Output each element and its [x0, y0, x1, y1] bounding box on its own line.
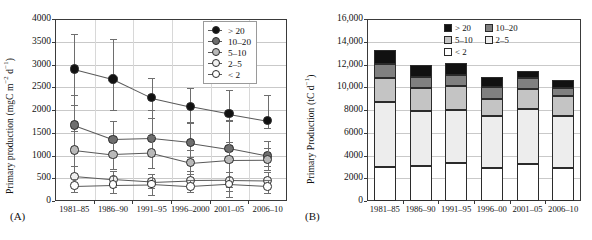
- panel-a-legend-label: > 20: [228, 26, 245, 36]
- panel-a-legend-line: [208, 41, 222, 42]
- panel-a-x-tickmark: [248, 201, 249, 204]
- panel-a-error-cap: [148, 78, 155, 79]
- panel-a-error-cap: [187, 192, 194, 193]
- panel-b-y-tick: 10,000: [318, 82, 363, 92]
- panel-b-bar-segment: [481, 99, 503, 117]
- panel-a-y-tick: 2500: [18, 82, 51, 92]
- panel-a-y-tick: 500: [18, 173, 51, 183]
- panel-b-y-tickmark: [364, 19, 367, 20]
- panel-a-y-tick: 2000: [18, 105, 51, 115]
- panel-b-bar-segment: [481, 87, 503, 98]
- panel-a-gridline: [56, 87, 286, 88]
- panel-a-error-cap: [187, 123, 194, 124]
- panel-b-bar-segment: [517, 71, 539, 78]
- panel-a-error-cap: [148, 174, 155, 175]
- panel-b-bar-segment: [552, 80, 574, 88]
- panel-b-legend-label: < 2: [455, 47, 467, 57]
- panel-a-error-cap: [187, 150, 194, 151]
- panel-a-y-tick: 0: [18, 196, 51, 206]
- panel-b-y-tickmark: [364, 42, 367, 43]
- panel-a-marker-3: [224, 155, 234, 165]
- panel-b-legend-swatch: [444, 24, 452, 32]
- panel-a-marker-3: [108, 150, 118, 160]
- panel-a-legend-label: 10–20: [228, 37, 251, 47]
- panel-b-x-tickmark: [474, 201, 475, 204]
- panel-a-error-cap: [110, 110, 117, 111]
- panel-a-marker-5: [263, 182, 272, 191]
- panel-a-error-cap: [110, 39, 117, 40]
- panel-b-legend-swatch: [485, 24, 493, 32]
- panel-a-marker-5: [186, 182, 195, 191]
- panel-b-x-tickmark: [545, 201, 546, 204]
- figure-container: Primary production (mgC m−2 d−1) 4000350…: [0, 0, 592, 240]
- panel-a-error-cap: [226, 90, 233, 91]
- panel-a-error-cap: [71, 95, 78, 96]
- panel-b-gridline: [368, 87, 580, 88]
- panel-a-legend-label: 5–10: [228, 48, 246, 58]
- panel-b-legend-label: 5–10: [455, 35, 473, 45]
- panel-a-y-tick: 3000: [18, 60, 51, 70]
- panel-a-y-tick: 4000: [18, 14, 51, 24]
- panel-b-bar-segment: [374, 167, 396, 201]
- panel-a-error-cap: [264, 180, 271, 181]
- panel-b-bar-segment: [410, 166, 432, 201]
- panel-b-legend-item: 10–20: [485, 22, 518, 33]
- panel-a-legend-line: [208, 52, 222, 53]
- panel-b-bar-segment: [517, 164, 539, 201]
- panel-a-y-tickmark: [52, 156, 55, 157]
- panel-a-y-tickmark: [52, 178, 55, 179]
- panel-a-error-cap: [110, 171, 117, 172]
- panel-b-gridline: [368, 178, 580, 179]
- panel-a-x-tickmark: [210, 201, 211, 204]
- panel-b-y-tickmark: [364, 87, 367, 88]
- panel-b-bar-segment: [552, 116, 574, 168]
- panel-b-bar-segment: [481, 77, 503, 87]
- panel-b-y-tick: 4000: [318, 151, 363, 161]
- panel-a-gridline: [56, 133, 286, 134]
- panel-b-y-tick: 6000: [318, 128, 363, 138]
- panel-a-marker-3: [70, 145, 80, 155]
- panel-b-legend-swatch: [485, 36, 493, 44]
- panel-a: Primary production (mgC m−2 d−1) 4000350…: [0, 0, 296, 240]
- panel-a-error-cap: [264, 148, 271, 149]
- panel-b-bar-segment: [374, 78, 396, 102]
- panel-a-legend-marker: [212, 37, 220, 45]
- panel-a-error-cap: [110, 138, 117, 139]
- panel-a-legend-item: 5–10: [208, 47, 251, 58]
- panel-b-bar-segment: [445, 86, 467, 110]
- panel-b-legend-item: 2–5: [485, 34, 518, 45]
- panel-b-legend-item: > 20: [444, 22, 473, 33]
- panel-b-bar-segment: [517, 89, 539, 109]
- panel-b-bar: [517, 71, 539, 201]
- panel-b-x-tick: 2006–10: [542, 205, 584, 214]
- panel-a-error-cap: [71, 179, 78, 180]
- panel-a-y-tick: 1000: [18, 151, 51, 161]
- panel-b-bar-segment: [374, 50, 396, 64]
- panel-a-marker-1: [186, 102, 196, 112]
- panel-b-bar-segment: [445, 75, 467, 86]
- panel-a-error-cap: [226, 177, 233, 178]
- panel-b-bar-segment: [481, 116, 503, 168]
- panel-b-x-tickmark: [403, 201, 404, 204]
- panel-b-bar-segment: [410, 77, 432, 88]
- panel-b-x-tickmark: [438, 201, 439, 204]
- panel-b-legend-item: < 2: [444, 46, 473, 57]
- panel-b-y-tickmark: [364, 110, 367, 111]
- panel-a-legend-item: 10–20: [208, 36, 251, 47]
- panel-b-y-tick: 16,000: [318, 14, 363, 24]
- panel-a-marker-1: [108, 74, 118, 84]
- panel-a-error-cap: [226, 120, 233, 121]
- panel-a-x-tickmark: [132, 201, 133, 204]
- panel-a-marker-1: [70, 64, 80, 74]
- panel-b-legend: > 2010–205–102–5< 2: [444, 22, 518, 57]
- panel-a-y-axis-title: Primary production (mgC m−2 d−1): [5, 24, 15, 194]
- panel-a-legend-item: > 20: [208, 25, 251, 36]
- panel-a-x-tickmark: [171, 201, 172, 204]
- panel-a-y-tickmark: [52, 42, 55, 43]
- panel-a-marker-3: [147, 148, 157, 158]
- panel-a-gridline-vertical: [95, 20, 96, 200]
- panel-a-marker-1: [224, 109, 234, 119]
- panel-b-bar: [552, 80, 574, 201]
- panel-a-legend-item: 2–5: [208, 58, 251, 69]
- panel-a-error-cap: [264, 128, 271, 129]
